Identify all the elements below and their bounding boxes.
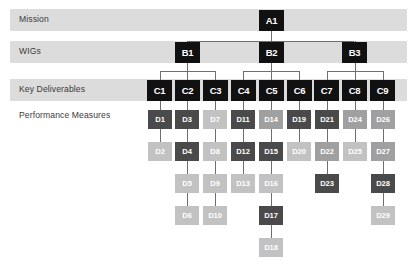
- node-D20[interactable]: D20: [287, 142, 311, 161]
- row-band-mission: [10, 9, 407, 31]
- node-D5[interactable]: D5: [175, 174, 199, 193]
- node-D10[interactable]: D10: [203, 206, 227, 225]
- node-B3[interactable]: B3: [342, 42, 367, 63]
- node-D28[interactable]: D28: [371, 174, 395, 193]
- node-C2[interactable]: C2: [175, 80, 200, 101]
- connector-D7-to-D8: [215, 129, 216, 142]
- connector-D15-to-D16: [271, 161, 272, 174]
- connector-down-C2: [187, 71, 188, 80]
- node-B2[interactable]: B2: [259, 42, 284, 63]
- connector-down-C5: [271, 71, 272, 80]
- connector-D16-to-D17: [271, 193, 272, 206]
- node-D3[interactable]: D3: [175, 110, 199, 129]
- node-C8[interactable]: C8: [342, 80, 367, 101]
- node-B1[interactable]: B1: [175, 42, 200, 63]
- connector-down-C9: [383, 71, 384, 80]
- row-label-key: Key Deliverables: [19, 85, 85, 94]
- node-D13[interactable]: D13: [231, 174, 255, 193]
- connector-D19-to-D20: [299, 129, 300, 142]
- connector-down-C1: [160, 71, 161, 80]
- row-label-perf: Performance Measures: [19, 111, 110, 120]
- connector-down-C8: [355, 71, 356, 80]
- node-C4[interactable]: C4: [231, 80, 256, 101]
- connector-B2-down: [271, 63, 272, 71]
- connector-D28-to-D29: [383, 193, 384, 206]
- node-D18[interactable]: D18: [259, 238, 283, 257]
- connector-D11-to-D12: [243, 129, 244, 142]
- node-C1[interactable]: C1: [147, 80, 172, 101]
- connector-D9-to-D10: [215, 193, 216, 206]
- node-D1[interactable]: D1: [148, 110, 172, 129]
- connector-D21-to-D22: [327, 129, 328, 142]
- connector-C2-to-D3: [187, 101, 188, 110]
- connector-D26-to-D27: [383, 129, 384, 142]
- connector-B3-down: [355, 63, 356, 71]
- connector-B1-down: [187, 63, 188, 71]
- connector-down-C6: [299, 71, 300, 80]
- node-D26[interactable]: D26: [371, 110, 395, 129]
- node-C7[interactable]: C7: [314, 80, 339, 101]
- node-D2[interactable]: D2: [148, 142, 172, 161]
- connector-D24-to-D25: [355, 129, 356, 142]
- node-D15[interactable]: D15: [259, 142, 283, 161]
- row-label-wigs: WIGs: [19, 47, 41, 56]
- connector-D8-to-D9: [215, 161, 216, 174]
- node-D12[interactable]: D12: [231, 142, 255, 161]
- strategy-cascade-diagram: MissionWIGsKey DeliverablesPerformance M…: [0, 0, 418, 269]
- node-D9[interactable]: D9: [203, 174, 227, 193]
- node-D17[interactable]: D17: [259, 206, 283, 225]
- node-D11[interactable]: D11: [231, 110, 255, 129]
- connector-C7-to-D21: [327, 101, 328, 110]
- connector-C8-to-D24: [355, 101, 356, 110]
- connector-A1-down: [271, 31, 272, 41]
- node-D14[interactable]: D14: [259, 110, 283, 129]
- connector-D1-to-D2: [160, 129, 161, 142]
- connector-D17-to-D18: [271, 225, 272, 238]
- connector-D5-to-D6: [187, 193, 188, 206]
- connector-C5-to-D14: [271, 101, 272, 110]
- connector-D27-to-D28: [383, 161, 384, 174]
- node-D8[interactable]: D8: [203, 142, 227, 161]
- node-C5[interactable]: C5: [259, 80, 284, 101]
- connector-down-C4: [243, 71, 244, 80]
- node-C3[interactable]: C3: [203, 80, 228, 101]
- node-D7[interactable]: D7: [203, 110, 227, 129]
- node-D25[interactable]: D25: [343, 142, 367, 161]
- connector-D14-to-D15: [271, 129, 272, 142]
- node-C6[interactable]: C6: [287, 80, 312, 101]
- connector-C3-to-D7: [215, 101, 216, 110]
- connector-down-C3: [215, 71, 216, 80]
- node-D16[interactable]: D16: [259, 174, 283, 193]
- connector-D4-to-D5: [187, 161, 188, 174]
- connector-C4-to-D11: [243, 101, 244, 110]
- node-D27[interactable]: D27: [371, 142, 395, 161]
- connector-C6-to-D19: [299, 101, 300, 110]
- node-D22[interactable]: D22: [315, 142, 339, 161]
- connector-D22-to-D23: [327, 161, 328, 174]
- node-A1[interactable]: A1: [259, 10, 284, 31]
- node-D21[interactable]: D21: [315, 110, 339, 129]
- node-D23[interactable]: D23: [315, 174, 339, 193]
- node-D19[interactable]: D19: [287, 110, 311, 129]
- connector-C1-to-D1: [160, 101, 161, 110]
- node-D29[interactable]: D29: [371, 206, 395, 225]
- connector-D12-to-D13: [243, 161, 244, 174]
- node-D24[interactable]: D24: [343, 110, 367, 129]
- connector-C9-to-D26: [383, 101, 384, 110]
- connector-D3-to-D4: [187, 129, 188, 142]
- connector-down-C7: [327, 71, 328, 80]
- node-D6[interactable]: D6: [175, 206, 199, 225]
- row-label-mission: Mission: [19, 15, 49, 24]
- node-D4[interactable]: D4: [175, 142, 199, 161]
- node-C9[interactable]: C9: [370, 80, 395, 101]
